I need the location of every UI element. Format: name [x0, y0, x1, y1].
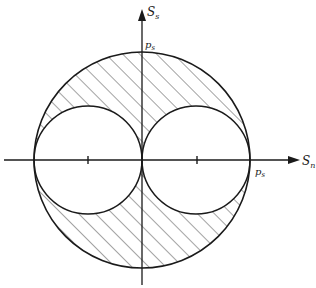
hatched-region — [0, 0, 316, 288]
stress-diagram: Ss Sn ps ps — [0, 0, 316, 288]
